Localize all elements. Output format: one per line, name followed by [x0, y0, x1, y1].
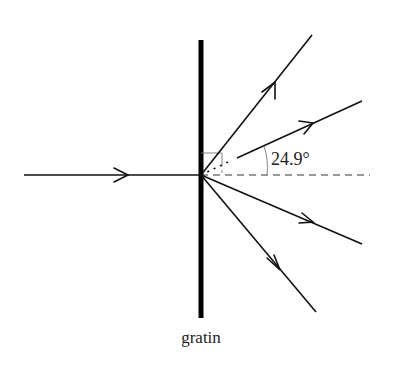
grating-bar	[199, 40, 204, 318]
angle-label: 24.9°	[271, 149, 310, 169]
grating-diagram: 24.9° gratin	[0, 0, 411, 366]
diffracted-ray-lower-2	[201, 175, 316, 312]
diffracted-ray-lower-1	[201, 175, 362, 244]
angle-arc	[264, 146, 267, 175]
diffracted-ray-upper-1-start	[201, 162, 228, 175]
grating-label: gratin	[181, 328, 221, 347]
arrow-upper-1-icon	[299, 121, 313, 134]
